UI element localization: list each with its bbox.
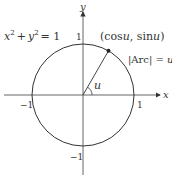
y-tick-neg: −1 bbox=[70, 152, 83, 162]
pt-u2: u bbox=[153, 30, 160, 43]
arc-text: |Arc| = bbox=[128, 54, 167, 66]
x-tick-neg: −1 bbox=[20, 100, 33, 110]
unit-circle-diagram: y x 1 −1 −1 1 x2+y2= 1 (cosu, sinu) |Arc… bbox=[0, 0, 172, 180]
arc-u: u bbox=[167, 54, 172, 65]
eq-plus: + bbox=[17, 30, 26, 43]
y-tick-pos: 1 bbox=[76, 32, 82, 42]
pt-open: (cos bbox=[100, 30, 123, 43]
pt-u1: u bbox=[123, 30, 130, 43]
eq-y-exp: 2 bbox=[34, 29, 38, 37]
angle-label: u bbox=[94, 79, 101, 92]
point-on-circle bbox=[107, 49, 111, 53]
eq-x-exp: 2 bbox=[10, 29, 14, 37]
x-tick-pos: 1 bbox=[137, 100, 143, 110]
arc-length-label: |Arc| = u bbox=[128, 54, 172, 66]
angle-arc bbox=[88, 87, 93, 95]
point-label: (cosu, sinu) bbox=[100, 30, 164, 43]
pt-sep: , sin bbox=[130, 30, 153, 43]
pt-close: ) bbox=[160, 30, 164, 43]
eq-rhs: = 1 bbox=[41, 30, 61, 43]
y-axis-label: y bbox=[79, 1, 86, 12]
x-axis-label: x bbox=[163, 89, 169, 100]
equation-label: x2+y2= 1 bbox=[4, 29, 60, 43]
